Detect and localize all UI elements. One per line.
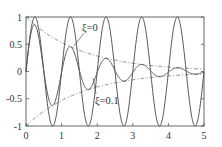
- x-tick-label-3: 3: [130, 130, 135, 141]
- y-tick-label-1: 1: [17, 12, 22, 23]
- x-tick-label-2: 2: [95, 130, 100, 141]
- annotation-xi01: ξ=0.1: [95, 95, 119, 107]
- y-tick-label-0.5: 0.5: [10, 39, 23, 50]
- x-tick-label-1: 1: [59, 130, 64, 141]
- y-tick-label-0: 0: [17, 66, 22, 77]
- y-tick-label-neg0.5: -0.5: [6, 93, 22, 104]
- y-tick-label-neg1: -1: [14, 121, 22, 132]
- plot-curves: [26, 17, 204, 126]
- series-line-1: [26, 25, 204, 106]
- x-tick-label-5: 5: [202, 130, 207, 141]
- x-tick-label-4: 4: [166, 130, 171, 141]
- series-line-2: [26, 17, 204, 69]
- damped-oscillation-chart: 1 0.5 0 -0.5 -1 0 1 2 3 4 5 ξ=0 ξ=0.1: [0, 0, 222, 147]
- annotation-xi0: ξ=0: [82, 22, 98, 34]
- x-tick-label-0: 0: [24, 130, 29, 141]
